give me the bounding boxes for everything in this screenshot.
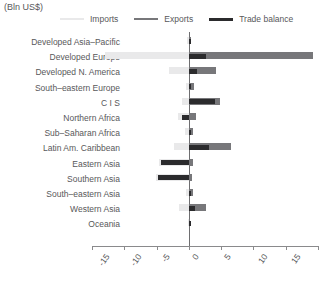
exports-swatch-icon xyxy=(134,18,158,20)
x-axis-tick xyxy=(318,246,319,250)
x-axis: -15-10-505101520 xyxy=(0,246,319,282)
x-axis-tick-label: 10 xyxy=(256,252,270,265)
bar-exports xyxy=(189,52,313,59)
bar-trade-balance xyxy=(189,99,215,104)
legend-item-exports: Exports xyxy=(134,14,193,24)
bar-exports xyxy=(189,159,194,166)
bar-imports xyxy=(169,67,189,74)
x-axis-tick-label: 5 xyxy=(222,252,233,262)
x-axis-tick xyxy=(92,246,93,250)
bar-trade-balance xyxy=(189,54,206,59)
x-axis-tick xyxy=(221,246,222,250)
x-axis-tick xyxy=(286,246,287,250)
x-axis-line xyxy=(92,246,318,247)
bar-trade-balance xyxy=(182,115,188,120)
bar-trade-balance xyxy=(189,145,209,150)
x-axis-tick-label: -15 xyxy=(96,252,111,268)
bar-imports xyxy=(105,52,189,59)
bar-trade-balance xyxy=(161,160,189,165)
bar-exports xyxy=(189,113,196,120)
legend-label-imports: Imports xyxy=(90,14,118,24)
bar-trade-balance xyxy=(189,191,191,196)
units-label: (Bln US$) xyxy=(4,2,43,12)
bar-trade-balance xyxy=(158,175,189,180)
bar-trade-balance xyxy=(189,130,191,135)
chart-legend: Imports Exports Trade balance xyxy=(60,14,293,24)
x-axis-tick xyxy=(157,246,158,250)
x-axis-tick-label: -10 xyxy=(129,252,144,268)
bar-imports xyxy=(179,204,189,211)
bar-trade-balance xyxy=(189,39,191,44)
bar-trade-balance xyxy=(189,69,197,74)
trade-bar-chart: (Bln US$) Imports Exports Trade balance … xyxy=(0,0,319,282)
legend-label-balance: Trade balance xyxy=(239,14,293,24)
legend-item-balance: Trade balance xyxy=(209,14,293,24)
bar-trade-balance xyxy=(189,221,191,226)
legend-item-imports: Imports xyxy=(60,14,118,24)
x-axis-tick-label: 0 xyxy=(190,252,201,262)
imports-swatch-icon xyxy=(60,18,84,20)
x-axis-tick xyxy=(253,246,254,250)
bar-exports xyxy=(189,174,192,181)
bar-trade-balance xyxy=(189,206,195,211)
bars-area xyxy=(0,32,319,246)
x-axis-tick xyxy=(189,246,190,250)
x-axis-tick-label: 15 xyxy=(289,252,303,265)
x-axis-tick xyxy=(124,246,125,250)
plot-area: Developed Asia–PacificDeveloped EuropeDe… xyxy=(0,32,319,246)
zero-line xyxy=(189,32,190,246)
bar-trade-balance xyxy=(189,84,192,89)
bar-imports xyxy=(174,143,189,150)
legend-label-exports: Exports xyxy=(164,14,193,24)
balance-swatch-icon xyxy=(209,18,233,21)
x-axis-tick-label: -5 xyxy=(159,252,172,264)
